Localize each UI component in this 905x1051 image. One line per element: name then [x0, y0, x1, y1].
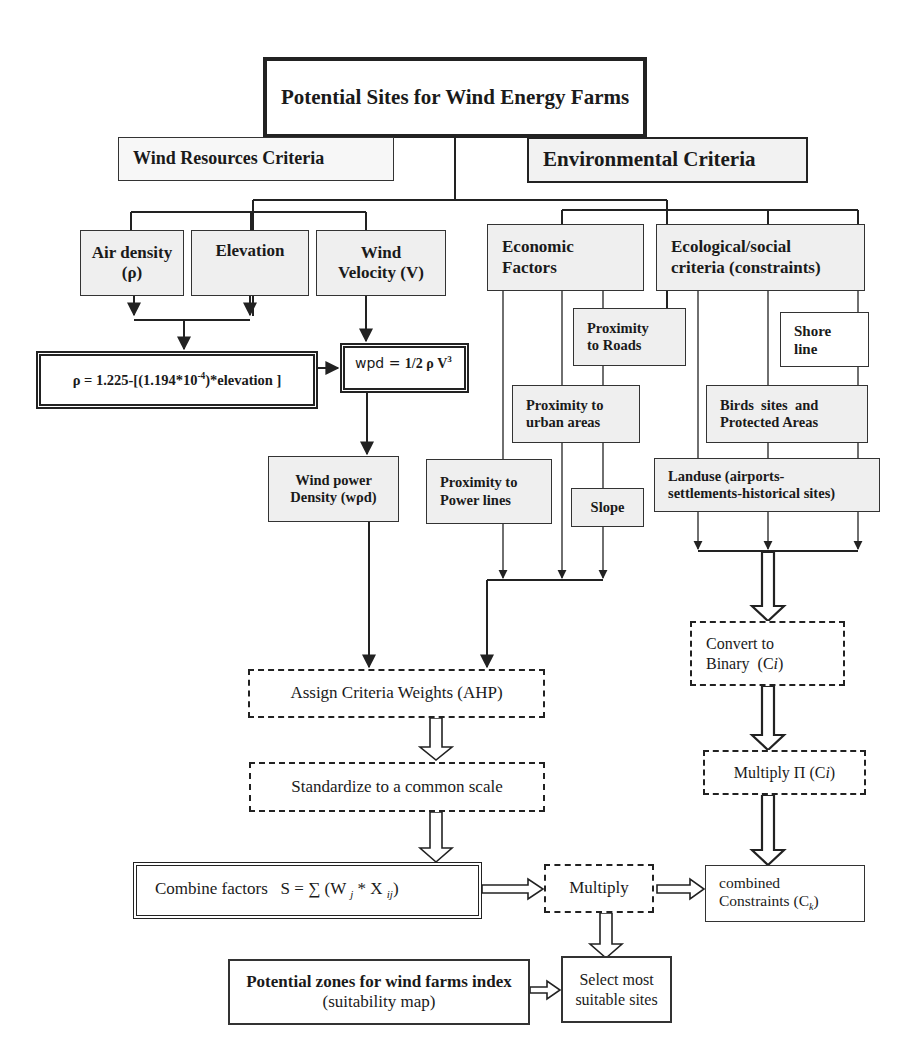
combine-factors-box: Combine factors S = ∑ (W j * X ij): [133, 862, 482, 919]
wind-velocity-line2: Velocity (V): [338, 263, 424, 283]
standardize-box: Standardize to a common scale: [249, 762, 545, 812]
select-sites-line1: Select most: [579, 970, 653, 989]
environmental-label: Environmental Criteria: [543, 147, 806, 172]
multiply-box: Multiply: [544, 864, 654, 913]
proximity-power-line2: Power lines: [440, 492, 551, 509]
combined-constraints-line1: combined: [719, 874, 864, 893]
multiply-label: Multiply: [569, 878, 629, 898]
shore-line-line2: line: [794, 340, 868, 358]
multiply-pi-label: Multiply Π (Ci): [734, 763, 835, 782]
wind-velocity-box: Wind Velocity (V): [316, 230, 446, 296]
air-density-line1: Air density: [92, 243, 172, 263]
title-box: Potential Sites for Wind Energy Farms: [263, 57, 647, 138]
slope-box: Slope: [571, 488, 644, 527]
wind-power-density-box: Wind power Density (wρd): [268, 456, 399, 522]
combined-constraints-box: combined Constraints (Ck): [705, 865, 865, 922]
economic-line2: Factors: [502, 258, 643, 278]
birds-protected-areas-box: Birds sites and Protected Areas: [706, 385, 868, 443]
shore-line-line1: Shore: [794, 322, 868, 340]
landuse-line2: settlements-historical sites): [668, 485, 879, 502]
proximity-power-lines-box: Proximity to Power lines: [426, 459, 552, 524]
select-sites-line2: suitable sites: [575, 990, 657, 1009]
proximity-urban-line2: urban areas: [526, 414, 639, 431]
potential-zones-line1: Potential zones for wind farms index: [246, 972, 512, 992]
wind-power-density-formula-box: wpd = 1/2 ρ V3: [340, 343, 469, 393]
economic-line1: Economic: [502, 237, 643, 257]
elevation-box: Elevation: [191, 230, 309, 296]
landuse-box: Landuse (airports- settlements-historica…: [654, 458, 880, 512]
potential-zones-line2: (suitability map): [323, 992, 436, 1012]
convert-binary-line2: Binary (Ci): [706, 654, 843, 673]
wind-power-density-line1: Wind power: [295, 472, 372, 489]
air-density-formula: ρ = 1.225-[(1.194*10-4)*elevation ]: [73, 371, 282, 389]
elevation-label: Elevation: [216, 241, 285, 261]
slope-label: Slope: [591, 499, 625, 516]
assign-weights-label: Assign Criteria Weights (AHP): [290, 683, 502, 703]
economic-factors-box: Economic Factors: [487, 224, 644, 291]
proximity-power-line1: Proximity to: [440, 474, 551, 491]
wind-velocity-line1: Wind: [361, 243, 401, 263]
wind-power-density-line2: Density (wρd): [290, 489, 376, 506]
proximity-urban-line1: Proximity to: [526, 397, 639, 414]
landuse-line1: Landuse (airports-: [668, 468, 879, 485]
proximity-roads-line2: to Roads: [587, 337, 685, 354]
multiply-pi-box: Multiply Π (Ci): [703, 750, 866, 795]
wind-resources-criteria-box: Wind Resources Criteria: [118, 137, 394, 181]
wpd-formula: wpd = 1/2 ρ V3: [355, 354, 452, 372]
assign-weights-box: Assign Criteria Weights (AHP): [248, 669, 545, 718]
proximity-roads-box: Proximity to Roads: [573, 308, 686, 366]
air-density-line2: (ρ): [122, 263, 142, 283]
shore-line-box: Shore line: [780, 312, 869, 367]
proximity-roads-line1: Proximity: [587, 320, 685, 337]
ecological-line1: Ecological/social: [671, 237, 864, 257]
standardize-label: Standardize to a common scale: [291, 777, 502, 797]
convert-binary-box: Convert to Binary (Ci): [690, 621, 845, 686]
convert-binary-line1: Convert to: [706, 634, 843, 653]
birds-line1: Birds sites and: [720, 397, 867, 414]
wind-resources-label: Wind Resources Criteria: [133, 148, 393, 170]
combined-constraints-line2: Constraints (Ck): [719, 892, 864, 913]
air-density-box: Air density (ρ): [80, 230, 184, 296]
combine-factors-label: Combine factors S = ∑ (W j * X ij): [155, 879, 478, 902]
proximity-urban-box: Proximity to urban areas: [512, 385, 640, 443]
birds-line2: Protected Areas: [720, 414, 867, 431]
environmental-criteria-box: Environmental Criteria: [527, 137, 808, 183]
ecological-line2: criteria (constraints): [671, 258, 864, 278]
potential-zones-box: Potential zones for wind farms index (su…: [228, 959, 530, 1025]
air-density-formula-box: ρ = 1.225-[(1.194*10-4)*elevation ]: [36, 351, 318, 409]
title-label: Potential Sites for Wind Energy Farms: [281, 85, 629, 110]
select-sites-box: Select most suitable sites: [561, 956, 672, 1023]
ecological-social-box: Ecological/social criteria (constraints): [656, 224, 865, 291]
